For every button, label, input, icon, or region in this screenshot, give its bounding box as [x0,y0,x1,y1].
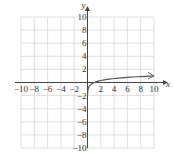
x-tick-label: 2 [99,84,104,94]
x-tick-label: −6 [43,84,53,94]
y-tick-label: −10 [72,143,87,153]
x-tick-label: −4 [56,84,66,94]
x-tick-label: 4 [112,84,117,94]
y-tick-label: −6 [77,117,87,127]
y-tick-label: 4 [82,51,87,61]
y-tick-label: −8 [77,130,87,140]
axes [15,6,168,148]
y-axis-label: y [81,0,86,10]
function-curve [88,76,154,96]
y-tick-label: −4 [77,104,87,114]
y-tick-label: 8 [82,25,87,35]
x-tick-label: −8 [30,84,40,94]
x-tick-label: 6 [125,84,130,94]
x-tick-label: 10 [150,84,160,94]
x-tick-label: 8 [138,84,143,94]
x-tick-label: −10 [14,84,29,94]
log-graph: −10−8−6−4−2246810108642−2−4−6−8−10 x y [0,0,173,154]
y-axis-arrow-icon [85,6,90,11]
y-tick-label: 10 [78,12,88,22]
x-axis-label: x [165,79,170,89]
y-tick-label: −2 [77,91,87,101]
y-tick-label: 2 [82,64,87,74]
y-tick-label: 6 [82,38,87,48]
